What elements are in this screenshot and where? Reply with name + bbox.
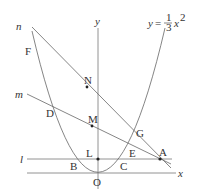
diagram-canvas: y = 1 3 x 2 y x O n m l F N D M L E G A … [0, 0, 200, 190]
line-m-label: m [15, 88, 23, 100]
y-axis-label: y [94, 15, 100, 27]
point-F-label: F [25, 45, 31, 57]
point-M-dot [91, 125, 94, 128]
point-N-label: N [84, 74, 92, 86]
point-C-label: C [120, 160, 127, 172]
point-L-label: L [86, 147, 93, 159]
point-A-label: A [159, 146, 167, 158]
point-B-label: B [70, 160, 77, 172]
point-D-label: D [46, 107, 54, 119]
line-l-label: l [20, 153, 23, 165]
equation-exponent: 2 [180, 11, 186, 23]
point-G-label: G [136, 127, 144, 139]
equation-label: y = 1 3 x 2 [147, 11, 186, 33]
equation-denominator: 3 [166, 21, 172, 33]
point-L-dot [96, 157, 99, 160]
equation-lhs: y [147, 17, 153, 29]
point-N-dot [86, 86, 89, 89]
parabola-curve [32, 28, 165, 172]
line-n [32, 27, 171, 168]
point-E-label: E [129, 147, 136, 159]
line-n-label: n [16, 20, 22, 32]
point-M-label: M [88, 113, 98, 125]
line-m [27, 94, 171, 164]
equation-equals: = [155, 17, 161, 29]
origin-label: O [93, 176, 101, 188]
equation-variable: x [173, 17, 179, 29]
x-axis-label: x [177, 167, 183, 179]
